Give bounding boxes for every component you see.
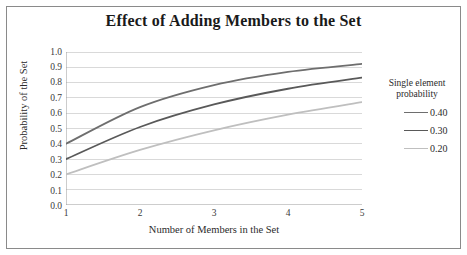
legend-label: 0.40 [430, 107, 456, 118]
x-tick-4: 4 [278, 208, 298, 218]
y-tick-1-0: 1.0 [36, 47, 62, 57]
y-axis-title: Probability of the Set [18, 31, 29, 181]
series-line-0-30 [66, 78, 362, 159]
legend-item-0-20[interactable]: 0.20 [378, 143, 456, 154]
legend-line-icon [404, 112, 428, 113]
chart-screenshot: Effect of Adding Members to the Set 1.0 … [0, 0, 467, 255]
y-tick-0-3: 0.3 [36, 155, 62, 165]
legend-title: Single element probability [378, 78, 456, 100]
chart-title: Effect of Adding Members to the Set [0, 12, 467, 30]
x-axis-tick-labels: 12345 [66, 208, 362, 222]
legend-title-line-2: probability [378, 89, 456, 100]
y-tick-0-1: 0.1 [36, 186, 62, 196]
legend-item-0-30[interactable]: 0.30 [378, 125, 456, 136]
y-tick-0-2: 0.2 [36, 170, 62, 180]
x-tick-5: 5 [352, 208, 372, 218]
x-tick-3: 3 [204, 208, 224, 218]
legend-title-line-1: Single element [378, 78, 456, 89]
legend-line-icon [404, 148, 428, 149]
legend-label: 0.20 [430, 143, 456, 154]
y-tick-0-8: 0.8 [36, 77, 62, 87]
series-lines [66, 64, 362, 174]
chart-canvas [66, 52, 362, 205]
x-tick-1: 1 [56, 208, 76, 218]
legend-line-icon [404, 130, 428, 131]
legend-items: 0.400.300.20 [378, 107, 462, 154]
x-tick-2: 2 [130, 208, 150, 218]
y-tick-0-9: 0.9 [36, 62, 62, 72]
legend-label: 0.30 [430, 125, 456, 136]
y-tick-0-5: 0.5 [36, 124, 62, 134]
legend-item-0-40[interactable]: 0.40 [378, 107, 456, 118]
plot-area [66, 52, 362, 205]
x-axis-title: Number of Members in the Set [66, 224, 362, 235]
y-tick-0-6: 0.6 [36, 108, 62, 118]
y-tick-0-4: 0.4 [36, 139, 62, 149]
y-tick-0-7: 0.7 [36, 93, 62, 103]
legend: Single element probability 0.400.300.20 [378, 78, 462, 154]
